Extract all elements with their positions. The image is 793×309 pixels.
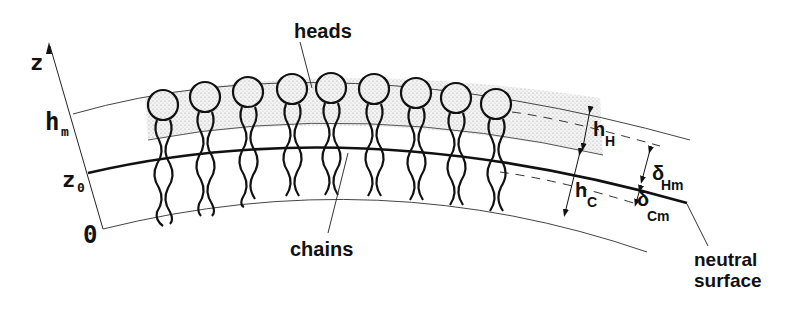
- z-axis: [50, 46, 103, 229]
- hm-label: h: [45, 108, 59, 136]
- bottom-boundary: [103, 199, 647, 252]
- hH-label: h: [593, 118, 605, 140]
- dCm-label: δ: [637, 188, 649, 210]
- lipid-molecules: [148, 73, 511, 226]
- neutral-label: neutral: [694, 249, 757, 270]
- z0-label: z: [62, 167, 75, 192]
- surface-label: surface: [694, 270, 762, 291]
- neutral-leader: [687, 204, 708, 246]
- hC-label: h: [575, 179, 587, 201]
- z-axis-label: z: [30, 50, 43, 75]
- hH-label-sub: H: [605, 133, 615, 149]
- dHm-label-sub: Hm: [661, 177, 684, 193]
- lipid-molecule: [233, 77, 263, 207]
- hm-label-sub: m: [61, 124, 69, 139]
- dCm-label-sub: Cm: [647, 208, 670, 224]
- dHm-dimension: [642, 150, 650, 180]
- hC-label-sub: C: [587, 194, 597, 210]
- lipid-molecule: [190, 82, 220, 216]
- dashed-chain-line: [500, 172, 640, 205]
- lipid-molecule: [481, 89, 511, 211]
- neutral-surface: [88, 148, 687, 203]
- lipid-molecule: [359, 74, 389, 196]
- chains-label: chains: [290, 238, 353, 260]
- z-axis-arrow-icon: [46, 42, 52, 54]
- lipid-molecule: [316, 73, 346, 195]
- heads-label: heads: [294, 20, 352, 42]
- z0-label-sub: 0: [77, 180, 85, 195]
- lipid-molecule: [401, 78, 431, 200]
- monolayer-diagram: z h m z 0 0 heads chains neutral surface…: [0, 0, 793, 309]
- origin-label: 0: [83, 221, 97, 249]
- lipid-molecule: [441, 83, 471, 205]
- lipid-molecule: [277, 74, 307, 196]
